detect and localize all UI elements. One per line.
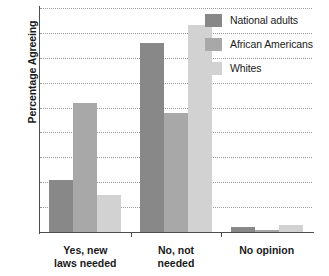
bar-african-americans-2 bbox=[164, 113, 188, 232]
x-tick-1 bbox=[131, 232, 132, 237]
bar-chart: Percentage Agreeing 0102030405060708090 … bbox=[0, 0, 329, 276]
x-category-label-3: No opinion bbox=[212, 244, 322, 257]
legend-label-2: African Americans bbox=[230, 38, 313, 50]
legend-label-1: National adults bbox=[230, 14, 298, 26]
legend-item-2[interactable]: African Americans bbox=[205, 32, 329, 56]
bar-african-americans-1 bbox=[73, 103, 97, 232]
bar-national-adults-1 bbox=[49, 180, 73, 232]
y-axis-title: Percentage Agreeing bbox=[26, 0, 38, 152]
legend-swatch-icon-3 bbox=[205, 62, 222, 75]
bar-african-americans-3 bbox=[255, 230, 279, 232]
chart-legend: National adultsAfrican AmericansWhites bbox=[205, 8, 329, 80]
bar-national-adults-3 bbox=[231, 227, 255, 232]
legend-item-1[interactable]: National adults bbox=[205, 8, 329, 32]
bar-whites-1 bbox=[97, 195, 121, 232]
bar-national-adults-2 bbox=[140, 43, 164, 232]
legend-label-3: Whites bbox=[230, 62, 262, 74]
x-axis-line bbox=[39, 232, 314, 233]
bar-whites-3 bbox=[279, 225, 303, 232]
legend-swatch-icon-2 bbox=[205, 38, 222, 51]
legend-swatch-icon-1 bbox=[205, 14, 222, 27]
bar-group-1 bbox=[40, 8, 131, 232]
legend-item-3[interactable]: Whites bbox=[205, 56, 329, 80]
x-tick-2 bbox=[221, 232, 222, 237]
